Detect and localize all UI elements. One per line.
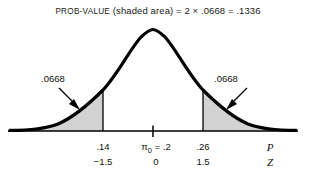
p-axis-name: P [258, 141, 282, 153]
left-tail-area-label: .0668 [41, 73, 65, 84]
right-tail-area-label: .0668 [214, 73, 238, 84]
z-tick-label-left: −1.5 [83, 156, 123, 167]
right-annotation-arrowhead [226, 99, 237, 110]
z-axis-name: Z [258, 156, 282, 168]
left-annotation-arrowhead [69, 99, 80, 110]
p-tick-label-right: .26 [183, 141, 223, 152]
p-tick-label-left: .14 [83, 141, 123, 152]
prob-value-normal-curve-figure: PROB-VALUE (shaded area) = 2 × .0668 = .… [0, 0, 316, 179]
p-tick-label-center: π0 = .2 [130, 141, 182, 155]
z-tick-label-center: 0 [130, 156, 182, 167]
pi-value: = .2 [152, 141, 171, 152]
z-tick-label-right: 1.5 [183, 156, 223, 167]
